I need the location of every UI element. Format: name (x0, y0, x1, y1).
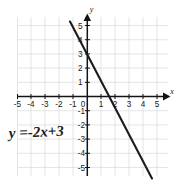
y-tick-label: 3 (78, 50, 83, 59)
x-tick-label: 3 (127, 100, 132, 109)
y-tick-label: -5 (78, 164, 86, 173)
figure-background (0, 0, 181, 186)
x-tick-label: -1 (69, 100, 77, 109)
x-tick-label: -2 (55, 100, 63, 109)
graph-figure: -5 -4 -3 -2 -1 0 1 2 3 4 5 5 4 3 2 1 -1 … (0, 0, 181, 186)
y-tick-label: -1 (78, 107, 86, 116)
y-tick-label: 5 (78, 22, 83, 31)
coordinate-plane-graph: -5 -4 -3 -2 -1 0 1 2 3 4 5 5 4 3 2 1 -1 … (0, 0, 181, 186)
y-axis-label: y (89, 5, 94, 14)
handwritten-equation: y =-2x+3 (6, 123, 64, 141)
y-tick-label: -2 (78, 121, 86, 130)
x-tick-label: -3 (41, 100, 49, 109)
x-tick-label: -5 (14, 100, 22, 109)
x-tick-label: 4 (141, 100, 146, 109)
y-tick-label: -4 (78, 149, 86, 158)
y-tick-label: 2 (78, 64, 83, 73)
x-tick-label: 5 (155, 100, 160, 109)
x-axis-label: x (169, 87, 174, 96)
x-tick-label: -4 (27, 100, 35, 109)
y-tick-label: -3 (78, 135, 86, 144)
x-tick-label: 2 (113, 100, 118, 109)
y-tick-label: 1 (78, 78, 83, 87)
x-tick-label: 1 (99, 100, 104, 109)
y-tick-label: 4 (78, 36, 83, 45)
